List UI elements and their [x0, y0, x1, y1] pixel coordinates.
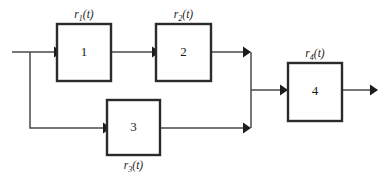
block-4[interactable]: 4 r4(t) [288, 47, 342, 121]
wire-input-to-block-1 [12, 47, 62, 58]
block-diagram-canvas: 1 r1(t) 2 r2(t) 3 r3(t) 4 r4(t) [0, 0, 387, 180]
wire-block-2-to-junction [211, 47, 251, 58]
block-4-label: r4(t) [305, 47, 325, 62]
block-3[interactable]: 3 r3(t) [107, 100, 160, 174]
wire-block-1-to-block-2 [111, 47, 160, 58]
block-4-number: 4 [312, 83, 319, 98]
block-2-number: 2 [180, 44, 187, 59]
block-2[interactable]: 2 r2(t) [156, 8, 211, 81]
block-2-label: r2(t) [174, 8, 194, 23]
wire-block-3-to-junction [160, 123, 251, 134]
block-2-label-tail: (t) [182, 8, 193, 21]
block-1-number: 1 [81, 44, 88, 59]
block-diagram-svg: 1 r1(t) 2 r2(t) 3 r3(t) 4 r4(t) [0, 0, 387, 180]
block-1-label: r1(t) [74, 8, 94, 23]
block-1[interactable]: 1 r1(t) [57, 8, 111, 81]
wire-junction-to-block-4 [251, 85, 288, 96]
wire-block-4-to-output [342, 85, 378, 96]
block-1-label-tail: (t) [83, 8, 94, 21]
block-3-label-tail: (t) [132, 159, 143, 172]
block-4-label-tail: (t) [314, 47, 325, 60]
block-3-label: r3(t) [124, 159, 144, 174]
block-3-number: 3 [130, 119, 137, 134]
